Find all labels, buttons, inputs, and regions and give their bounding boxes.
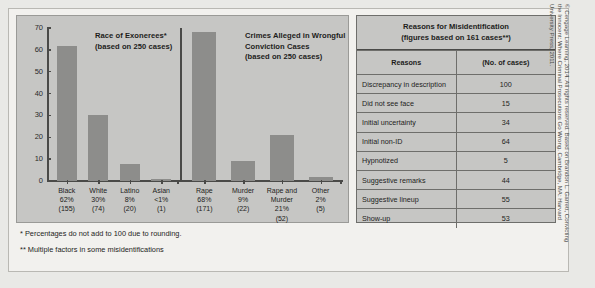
cell-count-0: 100 [456, 75, 555, 94]
x-tick-edge-race [177, 180, 179, 184]
chart-title-race-line1: Race of Exonerees* [95, 31, 205, 42]
x-label-part: (20) [114, 204, 146, 213]
column-header-reasons: Reasons [357, 51, 456, 75]
bar-race-1 [88, 115, 108, 181]
y-tick-label-20: 20 [23, 133, 43, 141]
x-tick-edge-crimes [340, 180, 342, 184]
chart-title-crimes: Crimes Alleged in Wrongful Conviction Ca… [245, 31, 365, 63]
x-label-crimes-2: Rape andMurder21%(52) [263, 186, 302, 223]
bar-charts-panel: 706050403020100 Black62%(155)White30%(74… [16, 15, 349, 223]
y-tick-label-70: 70 [23, 24, 43, 32]
x-tick-race-1 [98, 180, 100, 184]
copyright-credit: © Cengage Learning, 2014. All rights res… [549, 4, 571, 244]
cell-reason-1: Did not see face [357, 94, 456, 113]
bar-race-0 [57, 46, 77, 182]
x-label-crimes-3: Other2%(5) [301, 186, 340, 214]
reasons-table-head: Reasons (No. of cases) [357, 51, 555, 75]
cell-count-6: 55 [456, 190, 555, 209]
y-tick-label-10: 10 [23, 155, 43, 163]
x-label-part: (22) [224, 204, 263, 213]
chart-title-crimes-line3: (based on 250 cases) [245, 52, 365, 63]
table-row: Discrepancy in description100 [357, 75, 555, 94]
cell-count-2: 34 [456, 113, 555, 132]
x-tick-race-3 [161, 180, 163, 184]
x-label-crimes-0: Rape68%(171) [185, 186, 224, 214]
x-label-part: White [83, 186, 115, 195]
x-label-part: Rape [185, 186, 224, 195]
table-title: Reasons for Misidentification (figures b… [357, 16, 555, 50]
x-label-race-0: Black62%(155) [51, 186, 83, 214]
x-label-part: (52) [263, 214, 302, 223]
y-tick-label-40: 40 [23, 90, 43, 98]
x-label-part: 62% [51, 195, 83, 204]
x-label-part: 30% [83, 195, 115, 204]
reasons-table-body: Discrepancy in description100Did not see… [357, 75, 555, 229]
footnote-2: ** Multiple factors in some misidentific… [16, 245, 561, 255]
x-label-part: Murder [263, 195, 302, 204]
x-label-part: 8% [114, 195, 146, 204]
cell-count-7: 53 [456, 209, 555, 228]
bar-crimes-0 [192, 32, 216, 181]
table-title-line1: Reasons for Misidentification [403, 22, 509, 33]
cell-reason-0: Discrepancy in description [357, 75, 456, 94]
cell-count-5: 44 [456, 170, 555, 189]
x-label-part: 21% [263, 204, 302, 213]
table-header-row: Reasons (No. of cases) [357, 51, 555, 75]
x-label-race-3: Asian<1%(1) [146, 186, 178, 214]
x-label-race-1: White30%(74) [83, 186, 115, 214]
chart-title-crimes-line2: Conviction Cases [245, 42, 365, 53]
cell-reason-3: Initial non-ID [357, 132, 456, 151]
y-tick-label-0: 0 [23, 177, 43, 185]
table-row: Suggestive remarks44 [357, 170, 555, 189]
table-title-line2: (figures based on 161 cases**) [401, 33, 511, 44]
x-tick-crimes-0 [204, 180, 206, 184]
cell-count-1: 15 [456, 94, 555, 113]
x-label-part: <1% [146, 195, 178, 204]
figure-content: 706050403020100 Black62%(155)White30%(74… [16, 15, 561, 223]
x-label-race-2: Latino8%(20) [114, 186, 146, 214]
x-label-part: (155) [51, 204, 83, 213]
reasons-table: Reasons (No. of cases) Discrepancy in de… [357, 50, 555, 228]
chart-title-race: Race of Exonerees* (based on 250 cases) [95, 31, 205, 52]
x-label-part: Murder [224, 186, 263, 195]
x-label-part: (74) [83, 204, 115, 213]
table-row: Hypnotized5 [357, 151, 555, 170]
table-row: Show-up53 [357, 209, 555, 228]
chart-title-crimes-line1: Crimes Alleged in Wrongful [245, 31, 365, 42]
column-header-count: (No. of cases) [456, 51, 555, 75]
x-label-part: Rape and [263, 186, 302, 195]
x-label-part: (5) [301, 204, 340, 213]
cell-count-4: 5 [456, 151, 555, 170]
table-row: Initial non-ID64 [357, 132, 555, 151]
figure-container: 706050403020100 Black62%(155)White30%(74… [8, 8, 569, 272]
cell-reason-5: Suggestive remarks [357, 170, 456, 189]
x-label-part: 68% [185, 195, 224, 204]
table-row: Suggestive lineup55 [357, 190, 555, 209]
x-tick-race-2 [130, 180, 132, 184]
table-row: Did not see face15 [357, 94, 555, 113]
y-tick-label-30: 30 [23, 111, 43, 119]
cell-reason-6: Suggestive lineup [357, 190, 456, 209]
x-tick-race-0 [67, 180, 69, 184]
x-label-part: (1) [146, 204, 178, 213]
x-label-part: (171) [185, 204, 224, 213]
x-tick-crimes-2 [282, 180, 284, 184]
x-label-part: 9% [224, 195, 263, 204]
reasons-table-panel: Reasons for Misidentification (figures b… [356, 15, 556, 223]
x-tick-crimes-3 [321, 180, 323, 184]
y-tick-label-60: 60 [23, 46, 43, 54]
cell-reason-4: Hypnotized [357, 151, 456, 170]
x-label-part: Black [51, 186, 83, 195]
x-tick-crimes-1 [243, 180, 245, 184]
cell-reason-7: Show-up [357, 209, 456, 228]
cell-reason-2: Initial uncertainty [357, 113, 456, 132]
chart-title-race-line2: (based on 250 cases) [95, 42, 205, 53]
bar-race-2 [120, 164, 140, 181]
table-row: Initial uncertainty34 [357, 113, 555, 132]
x-label-crimes-1: Murder9%(22) [224, 186, 263, 214]
bar-crimes-1 [231, 161, 255, 181]
x-label-part: Latino [114, 186, 146, 195]
cell-count-3: 64 [456, 132, 555, 151]
y-tick-label-50: 50 [23, 68, 43, 76]
plot-area: 706050403020100 Black62%(155)White30%(74… [17, 16, 348, 222]
